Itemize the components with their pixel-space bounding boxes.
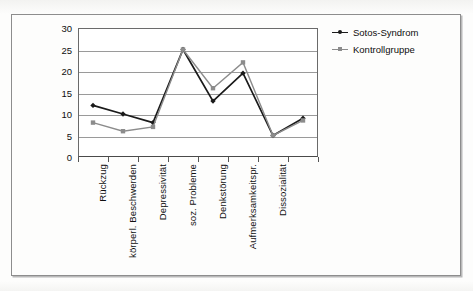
- x-category-label: Depressivität: [157, 164, 168, 220]
- x-category-label: Denkstörung: [217, 164, 228, 219]
- series-line-kontrollgruppe: [93, 50, 303, 136]
- y-tick-label: 25: [61, 44, 72, 55]
- x-axis-tick: [258, 157, 259, 162]
- data-point-marker: [91, 120, 95, 124]
- square-marker-icon: [332, 45, 348, 55]
- data-point-marker: [211, 86, 215, 90]
- data-point-marker: [90, 103, 95, 108]
- data-point-marker: [241, 60, 245, 64]
- x-axis-tick: [318, 157, 319, 162]
- data-point-marker: [301, 118, 305, 122]
- series-line-sotos-syndrom: [93, 50, 303, 136]
- y-axis-tick-labels: 051015202530: [44, 28, 72, 157]
- y-tick-label: 30: [61, 23, 72, 34]
- legend-item-kontrollgruppe: Kontrollgruppe: [332, 41, 458, 58]
- x-axis-tick: [138, 157, 139, 162]
- y-tick-label: 10: [61, 109, 72, 120]
- y-tick-label: 5: [67, 130, 72, 141]
- x-axis-tick: [108, 157, 109, 162]
- x-category-label: körperl. Beschwerden: [127, 164, 138, 258]
- x-category-label: soz. Probleme: [187, 164, 198, 226]
- x-axis-tick: [228, 157, 229, 162]
- y-tick-label: 0: [67, 152, 72, 163]
- x-axis-tick: [288, 157, 289, 162]
- data-point-marker: [181, 47, 185, 51]
- y-tick-label: 20: [61, 66, 72, 77]
- chart-series-layer: [78, 28, 318, 157]
- legend-label-sotos-syndrom: Sotos-Syndrom: [353, 27, 418, 38]
- figure-container: 051015202530 Rückzugkörperl. Beschwerden…: [0, 0, 473, 291]
- x-axis-tick: [78, 157, 79, 162]
- legend-label-kontrollgruppe: Kontrollgruppe: [353, 44, 415, 55]
- y-tick-label: 15: [61, 87, 72, 98]
- x-axis-tick: [168, 157, 169, 162]
- legend-item-sotos-syndrom: Sotos-Syndrom: [332, 24, 458, 41]
- x-axis-tick: [198, 157, 199, 162]
- data-point-marker: [121, 129, 125, 133]
- chart-legend: Sotos-Syndrom Kontrollgruppe: [332, 24, 458, 58]
- x-category-label: Aufmerksamkeitspr.: [247, 164, 258, 249]
- diamond-marker-icon: [332, 28, 348, 38]
- x-category-label: Rückzug: [97, 164, 108, 202]
- data-point-marker: [271, 133, 275, 137]
- x-category-label: Dissozialität: [277, 164, 288, 216]
- data-point-marker: [151, 125, 155, 129]
- data-point-marker: [120, 111, 125, 116]
- x-axis-category-labels: Rückzugkörperl. BeschwerdenDepressivität…: [78, 164, 318, 274]
